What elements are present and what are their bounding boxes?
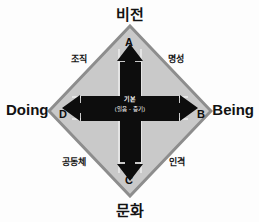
quadrant-label-top-right: 명성 — [168, 52, 184, 65]
vertex-letter-c: C — [125, 174, 133, 186]
axis-label-top: 비전 — [0, 3, 259, 24]
diamond-svg — [47, 24, 213, 198]
axis-label-left: Doing — [6, 101, 49, 118]
diamond-shape — [47, 24, 213, 198]
vertex-letter-b: B — [197, 108, 205, 120]
quadrant-label-bottom-left: 공동체 — [62, 155, 86, 168]
quadrant-label-top-left: 조직 — [71, 52, 87, 65]
vertex-letter-d: D — [59, 108, 67, 120]
vertex-letter-a: A — [125, 36, 133, 48]
quadrant-label-bottom-right: 인격 — [169, 155, 185, 168]
axis-label-right: Being — [212, 101, 254, 118]
axis-label-bottom: 문화 — [0, 199, 259, 220]
diagram-canvas: 기본 (일음 - 증기) 비전 문화 Doing Being A B C D 조… — [0, 0, 259, 222]
